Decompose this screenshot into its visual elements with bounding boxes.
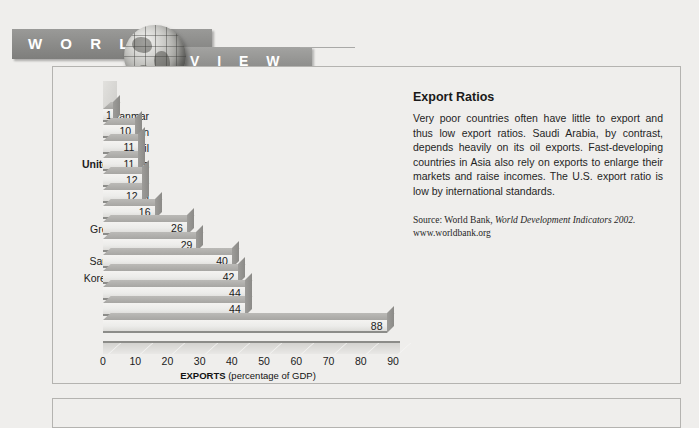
export-ratios-panel: Export Ratios Very poor countries often … [413, 90, 663, 240]
x-tick-label: 50 [251, 355, 277, 367]
x-axis-title-bold: EXPORTS [180, 370, 225, 381]
x-tick-mark [301, 343, 314, 354]
panel-source: Source: World Bank, World Development In… [413, 214, 663, 240]
x-tick-mark [172, 343, 185, 354]
figure-frame-secondary [52, 398, 681, 428]
x-tick-label: 20 [154, 355, 180, 367]
bars-area: 110111112121626294042444488 [103, 81, 393, 343]
panel-body: Very poor countries often have little to… [413, 111, 663, 198]
bar-top-bevel [103, 215, 195, 222]
x-axis-band [103, 343, 400, 354]
x-axis-title: EXPORTS (percentage of GDP) [103, 370, 393, 381]
x-tick-label: 30 [187, 355, 213, 367]
banner-bar-tail [300, 47, 355, 52]
source-title: World Development Indicators 2002. [495, 215, 636, 225]
x-tick-mark [334, 343, 347, 354]
bar-top-bevel [103, 248, 240, 255]
bar-top-bevel [103, 264, 246, 271]
bar-top-bevel [103, 280, 253, 287]
bar-top-bevel [103, 296, 253, 303]
source-url[interactable]: www.worldbank.org [413, 228, 491, 238]
x-tick-label: 10 [122, 355, 148, 367]
export-ratio-chart: MyanmarJapanBrazilUnited StatesHaitiIndi… [53, 81, 398, 371]
x-tick-mark [366, 343, 379, 354]
x-tick-mark [108, 343, 121, 354]
bar-top-bevel [103, 313, 394, 320]
bar-top-bevel [103, 199, 162, 206]
x-tick-label: 40 [219, 355, 245, 367]
x-tick-mark [205, 343, 218, 354]
source-prefix: Source: World Bank, [413, 215, 495, 225]
x-tick-mark [140, 343, 153, 354]
x-tick-label: 60 [283, 355, 309, 367]
x-tick-label: 80 [348, 355, 374, 367]
figure-frame: MyanmarJapanBrazilUnited StatesHaitiIndi… [52, 66, 681, 384]
x-tick-label: 90 [380, 355, 406, 367]
x-tick-label: 70 [316, 355, 342, 367]
bar-top-bevel [103, 232, 204, 239]
x-tick-mark [237, 343, 250, 354]
bar-side-bevel [387, 306, 394, 333]
panel-title: Export Ratios [413, 90, 663, 104]
x-axis-title-rest: (percentage of GDP) [226, 370, 316, 381]
bar-value-label: 88 [103, 320, 387, 333]
x-tick-mark [269, 343, 282, 354]
x-tick-mark [398, 343, 411, 354]
x-tick-label: 0 [90, 355, 116, 367]
